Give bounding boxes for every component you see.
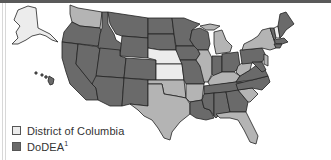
legend-item-dodea: DoDEA1 — [12, 140, 124, 153]
state-ar[interactable] — [186, 84, 204, 102]
legend-swatch-lightest — [12, 126, 21, 135]
legend-swatch-dark — [12, 142, 21, 151]
footnote-marker: 1 — [64, 140, 68, 147]
state-az[interactable] — [92, 76, 124, 106]
state-nm[interactable] — [122, 78, 148, 106]
state-ma[interactable] — [274, 38, 288, 44]
legend-label-dc: District of Columbia — [27, 125, 124, 137]
state-ak[interactable] — [12, 6, 58, 44]
legend-label-dodea: DoDEA1 — [27, 140, 68, 153]
state-fl[interactable] — [216, 112, 258, 144]
state-sd[interactable] — [148, 34, 176, 50]
state-ks[interactable] — [156, 64, 184, 80]
state-me[interactable] — [278, 12, 294, 38]
map-legend: District of Columbia DoDEA1 — [12, 124, 124, 156]
state-hi[interactable] — [35, 72, 54, 85]
state-mi[interactable] — [214, 30, 232, 54]
state-nd[interactable] — [148, 18, 174, 34]
state-wy[interactable] — [120, 36, 148, 58]
legend-item-dc: District of Columbia — [12, 124, 124, 137]
state-co[interactable] — [124, 58, 156, 80]
state-nj[interactable] — [264, 54, 268, 66]
